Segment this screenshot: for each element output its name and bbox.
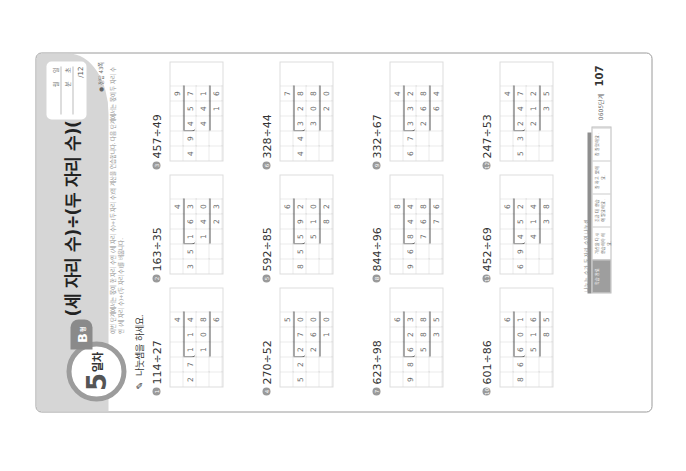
quotient-cell[interactable] (390, 243, 403, 258)
remainder-cell[interactable] (209, 258, 222, 273)
remainder-cell[interactable]: 6 (209, 85, 222, 100)
dividend-cell[interactable]: 7 (513, 85, 526, 100)
remainder-cell[interactable] (429, 115, 442, 130)
quotient-cell[interactable] (500, 371, 513, 386)
dividend-cell[interactable]: 2 (293, 198, 306, 213)
remainder-cell[interactable]: 5 (539, 311, 552, 326)
remainder-cell[interactable]: 0 (319, 311, 332, 326)
product-cell[interactable] (306, 371, 319, 386)
divisor-cell[interactable]: 6 (513, 356, 526, 371)
product-cell[interactable] (416, 145, 429, 160)
remainder-cell[interactable] (209, 130, 222, 145)
remainder-cell[interactable] (209, 326, 222, 341)
quotient-cell[interactable] (500, 341, 513, 356)
quotient-cell[interactable] (390, 100, 403, 115)
remainder-cell[interactable] (319, 145, 332, 160)
remainder-cell[interactable]: 1 (319, 326, 332, 341)
remainder-cell[interactable]: 2 (319, 100, 332, 115)
divisor-cell[interactable]: 6 (513, 258, 526, 273)
quotient-cell[interactable] (390, 115, 403, 130)
remainder-cell[interactable]: 6 (209, 311, 222, 326)
quotient-cell[interactable] (500, 115, 513, 130)
quotient-cell[interactable] (280, 145, 293, 160)
quotient-cell[interactable] (500, 356, 513, 371)
quotient-cell[interactable] (390, 371, 403, 386)
remainder-cell[interactable]: 5 (539, 85, 552, 100)
quotient-cell[interactable] (280, 258, 293, 273)
divisor-cell[interactable]: 8 (293, 258, 306, 273)
remainder-cell[interactable] (429, 130, 442, 145)
divisor-cell[interactable]: 8 (513, 371, 526, 386)
divisor-cell[interactable]: 7 (403, 130, 416, 145)
remainder-cell[interactable]: 8 (319, 213, 332, 228)
product-cell[interactable]: 8 (416, 311, 429, 326)
divisor-cell[interactable]: 6 (403, 243, 416, 258)
dividend-cell[interactable]: 1 (183, 326, 196, 341)
dividend-cell[interactable]: 4 (183, 311, 196, 326)
remainder-cell[interactable] (429, 145, 442, 160)
product-cell[interactable]: 1 (196, 341, 209, 356)
quotient-cell[interactable] (390, 228, 403, 243)
product-cell[interactable] (306, 243, 319, 258)
product-cell[interactable] (526, 356, 539, 371)
remainder-cell[interactable]: 3 (429, 326, 442, 341)
remainder-cell[interactable] (539, 130, 552, 145)
quotient-cell[interactable] (500, 258, 513, 273)
remainder-cell[interactable] (209, 371, 222, 386)
product-cell[interactable]: 4 (196, 100, 209, 115)
quotient-cell[interactable]: 6 (390, 311, 403, 326)
remainder-cell[interactable]: 7 (429, 213, 442, 228)
product-cell[interactable] (196, 371, 209, 386)
quotient-cell[interactable] (390, 145, 403, 160)
remainder-cell[interactable] (539, 371, 552, 386)
remainder-cell[interactable] (429, 371, 442, 386)
dividend-cell[interactable]: 0 (513, 326, 526, 341)
remainder-cell[interactable] (319, 130, 332, 145)
product-cell[interactable] (196, 258, 209, 273)
remainder-cell[interactable] (429, 228, 442, 243)
product-cell[interactable] (526, 258, 539, 273)
quotient-cell[interactable]: 5 (280, 311, 293, 326)
remainder-cell[interactable]: 2 (209, 213, 222, 228)
product-cell[interactable]: 1 (196, 85, 209, 100)
product-cell[interactable]: 2 (526, 85, 539, 100)
remainder-cell[interactable]: 4 (429, 85, 442, 100)
dividend-cell[interactable]: 2 (403, 85, 416, 100)
quotient-cell[interactable] (170, 326, 183, 341)
product-cell[interactable] (526, 130, 539, 145)
product-cell[interactable]: 6 (306, 326, 319, 341)
quotient-cell[interactable] (170, 130, 183, 145)
remainder-cell[interactable]: 6 (429, 100, 442, 115)
divisor-cell[interactable]: 7 (183, 356, 196, 371)
product-cell[interactable] (416, 356, 429, 371)
divisor-cell[interactable]: 9 (403, 258, 416, 273)
dividend-cell[interactable]: 5 (183, 100, 196, 115)
product-cell[interactable]: 1 (306, 213, 319, 228)
remainder-cell[interactable] (429, 243, 442, 258)
product-cell[interactable]: 1 (526, 213, 539, 228)
divisor-cell[interactable]: 4 (183, 145, 196, 160)
product-cell[interactable]: 0 (306, 311, 319, 326)
remainder-cell[interactable]: 2 (319, 198, 332, 213)
remainder-cell[interactable] (319, 243, 332, 258)
quotient-cell[interactable] (280, 213, 293, 228)
divisor-cell[interactable]: 2 (293, 356, 306, 371)
quotient-cell[interactable]: 8 (390, 198, 403, 213)
remainder-cell[interactable] (429, 341, 442, 356)
product-cell[interactable] (306, 356, 319, 371)
quotient-cell[interactable] (500, 228, 513, 243)
divisor-cell[interactable]: 5 (293, 243, 306, 258)
remainder-cell[interactable] (539, 115, 552, 130)
quotient-cell[interactable] (390, 213, 403, 228)
quotient-cell[interactable] (280, 115, 293, 130)
product-cell[interactable] (306, 130, 319, 145)
product-cell[interactable] (196, 130, 209, 145)
remainder-cell[interactable] (209, 356, 222, 371)
product-cell[interactable] (526, 145, 539, 160)
quotient-cell[interactable]: 6 (500, 311, 513, 326)
product-cell[interactable]: 8 (306, 85, 319, 100)
divisor-cell[interactable]: 4 (293, 145, 306, 160)
quotient-cell[interactable] (170, 356, 183, 371)
quotient-cell[interactable] (280, 341, 293, 356)
quotient-cell[interactable]: 9 (170, 85, 183, 100)
